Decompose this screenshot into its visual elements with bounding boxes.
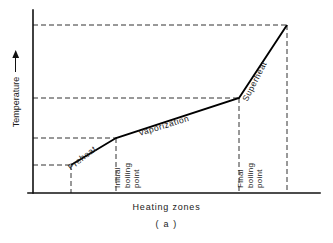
heating-curve [71,25,287,165]
annotation-initial-boiling-point: Initial boiling point [113,163,142,188]
heating-curve-figure: Temperature Heating zones ( a ) Preheat … [0,0,333,243]
annotation-line: Initial [113,163,123,188]
y-axis-label: Temperature [6,52,26,152]
annotation-line: point [132,163,142,188]
figure-caption: ( a ) [0,219,333,229]
annotation-line: point [255,163,265,188]
annotation-line: boiling [246,163,256,188]
annotation-final-boiling-point: Final boiling point [236,163,265,188]
annotation-line: Final [236,163,246,188]
annotation-line: boiling [123,163,133,188]
y-axis-label-text: Temperature [11,77,21,128]
x-axis-label: Heating zones [0,202,333,212]
